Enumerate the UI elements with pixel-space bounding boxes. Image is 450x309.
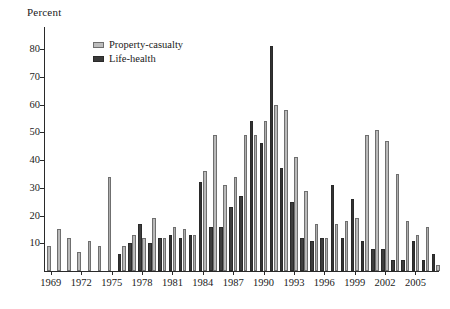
bar-property-casualty [163,238,167,271]
bar-property-casualty [254,135,258,271]
bar-life-health [148,243,152,271]
bar-property-casualty [264,121,268,271]
bar-property-casualty [57,229,61,271]
bar-life-health [179,238,183,271]
y-axis-tick-label: 60 [30,100,41,110]
bar-life-health [290,202,294,271]
bar-property-casualty [142,238,146,271]
x-axis-tick-label: 1993 [283,277,304,289]
x-axis-tick-label: 2005 [405,277,426,289]
x-axis-tick [172,271,173,275]
bar-property-casualty [244,135,248,271]
bar-property-casualty [365,135,369,271]
bar-property-casualty [122,246,126,271]
bar-property-casualty [77,252,81,271]
y-axis-tick-label: 40 [30,155,41,165]
bar-property-casualty [335,224,339,271]
bar-life-health [361,241,365,272]
bar-life-health [209,227,213,271]
x-axis-tick-label: 1999 [344,277,365,289]
bar-life-health [280,168,284,271]
bar-property-casualty [284,110,288,271]
bar-life-health [199,182,203,271]
x-axis-tick-label: 2002 [375,277,396,289]
x-axis-tick-label: 1981 [162,277,183,289]
bar-property-casualty [396,174,400,271]
bar-property-casualty [67,238,71,271]
bar-property-casualty [183,229,187,271]
x-axis-tick [51,271,52,275]
bar-property-casualty [203,171,207,271]
bar-property-casualty [193,235,197,271]
y-axis-tick-label: 30 [30,183,41,193]
bar-life-health [351,199,355,271]
bar-property-casualty [108,177,112,271]
bar-property-casualty [315,224,319,271]
y-axis-tick-labels: 1020304050607080 [6,27,40,272]
bar-life-health [320,238,324,271]
bar-life-health [412,241,416,272]
bar-life-health [270,46,274,271]
bar-life-health [239,196,243,271]
bar-property-casualty [355,218,359,271]
y-axis-tick-label: 10 [30,238,41,248]
bar-life-health [381,249,385,271]
y-axis-tick-label: 20 [30,211,41,221]
bar-property-casualty [173,227,177,271]
x-axis-tick [294,271,295,275]
bar-life-health [422,260,426,271]
x-axis-tick-labels: 1969197219751978198119841987199019931996… [44,277,439,297]
bar-life-health [169,235,173,271]
x-axis-tick [81,271,82,275]
legend-item-life-health: Life-health [93,52,183,66]
bar-property-casualty [406,221,410,271]
bar-life-health [138,224,142,271]
bar-property-casualty [375,130,379,271]
x-axis-tick [142,271,143,275]
legend-item-property-casualty: Property-casualty [93,38,183,52]
x-axis-tick [112,271,113,275]
x-axis-tick [415,271,416,275]
bar-life-health [310,241,314,272]
y-axis-tick-label: 80 [30,44,41,54]
bar-property-casualty [213,135,217,271]
bar-property-casualty [152,218,156,271]
bar-life-health [391,260,395,271]
bar-chart-figure: Percent 1020304050607080 196919721975197… [0,0,450,309]
x-axis-tick-label: 1975 [101,277,122,289]
bar-property-casualty [304,191,308,271]
x-axis-tick-label: 1996 [314,277,335,289]
bar-life-health [260,143,264,271]
bar-property-casualty [132,235,136,271]
bar-property-casualty [98,246,102,271]
x-axis-tick [264,271,265,275]
x-axis-tick-label: 1969 [40,277,61,289]
x-axis-tick [203,271,204,275]
bar-property-casualty [223,185,227,271]
y-axis-tick-label: 70 [30,72,41,82]
legend-swatch-icon [93,42,104,48]
bar-life-health [300,238,304,271]
x-axis-tick-label: 1987 [223,277,244,289]
bar-life-health [189,235,193,271]
x-axis-tick [324,271,325,275]
bar-life-health [219,227,223,271]
bar-property-casualty [274,105,278,271]
bar-life-health [250,121,254,271]
bar-life-health [229,207,233,271]
bar-property-casualty [385,141,389,271]
bar-property-casualty [294,157,298,271]
legend-label: Life-health [109,52,156,66]
bar-property-casualty [426,227,430,271]
y-axis-title: Percent [27,6,61,18]
x-axis-tick-label: 1984 [192,277,213,289]
bar-life-health [118,254,122,271]
bar-property-casualty [345,221,349,271]
x-axis-tick-label: 1990 [253,277,274,289]
bar-life-health [401,260,405,271]
chart-legend: Property-casualty Life-health [93,38,183,66]
x-axis-tick [355,271,356,275]
legend-swatch-icon [93,56,104,62]
bar-property-casualty [436,265,440,271]
bar-property-casualty [88,241,92,272]
